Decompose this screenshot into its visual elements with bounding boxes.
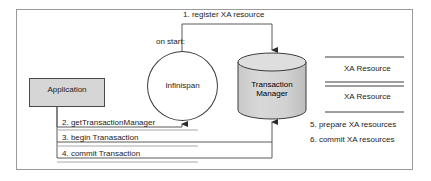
application-node-label: Application	[29, 86, 105, 94]
xa-resource-2-label: XA Resource	[344, 93, 391, 101]
step-2-label: 2. getTransactionManager	[62, 119, 155, 127]
step-5-label: 5. prepare XA resources	[310, 121, 396, 129]
transaction-manager-node-label: Transaction Manager	[240, 80, 304, 98]
step-4-label: 4. commit Transaction	[62, 150, 140, 158]
step-1-label: 1. register XA resource	[183, 11, 264, 19]
diagram-canvas: Application Infinispan Transaction Manag…	[0, 0, 431, 181]
on-start-label: on start:	[156, 38, 185, 46]
arrow-register-xa-resource	[182, 24, 272, 51]
step-6-label: 6. commit XA resources	[310, 136, 394, 144]
transaction-manager-label-line2: Manager	[240, 89, 304, 98]
xa-resource-1-label: XA Resource	[344, 65, 391, 73]
step-3-label: 3. begin Tranasaction	[62, 134, 139, 142]
infinispan-node-label: Infinispan	[147, 82, 218, 90]
transaction-manager-label-line1: Transaction	[240, 80, 304, 89]
